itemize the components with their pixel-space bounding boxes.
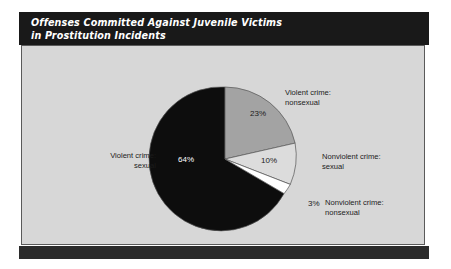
pie-label-violent-nonsexual-line-2: nonsexual	[285, 98, 331, 108]
pie-value-nonviolent-nonsexual: 3%	[308, 199, 320, 208]
pie-label-violent-nonsexual: Violent crime: nonsexual	[285, 88, 331, 107]
pie-label-violent-nonsexual-line-1: Violent crime:	[285, 88, 331, 98]
pie-label-nonviolent-sexual-line-1: Nonviolent crime:	[322, 152, 381, 162]
chart-footer-bar	[19, 246, 429, 259]
pie-label-nonviolent-nonsexual-line-1: Nonviolent crime:	[325, 198, 384, 208]
pie-label-violent-sexual: Violent crime: sexual	[40, 151, 156, 170]
pie-value-violent-sexual: 64%	[178, 155, 194, 164]
chart-title-line-2: in Prostitution Incidents	[31, 29, 429, 42]
chart-title-bar: Offenses Committed Against Juvenile Vict…	[19, 12, 429, 45]
pie-value-violent-nonsexual: 23%	[250, 109, 266, 118]
chart-title-line-1: Offenses Committed Against Juvenile Vict…	[31, 16, 429, 29]
pie-value-nonviolent-sexual: 10%	[261, 156, 277, 165]
pie-label-nonviolent-sexual-line-2: sexual	[322, 162, 381, 172]
pie-label-violent-sexual-line-2: sexual	[40, 161, 156, 171]
pie-chart-panel: 64% 23% 10% 3% Violent crime: sexual Vio…	[21, 45, 425, 245]
pie-label-nonviolent-nonsexual: Nonviolent crime: nonsexual	[325, 198, 384, 217]
chart-figure: Offenses Committed Against Juvenile Vict…	[19, 12, 429, 259]
pie-label-nonviolent-sexual: Nonviolent crime: sexual	[322, 152, 381, 171]
pie-label-violent-sexual-line-1: Violent crime:	[40, 151, 156, 161]
pie-label-nonviolent-nonsexual-line-2: nonsexual	[325, 208, 384, 218]
